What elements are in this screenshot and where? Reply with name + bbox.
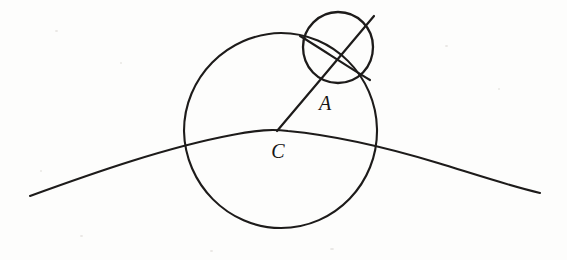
geometry-figure: A C — [0, 0, 567, 260]
label-c: C — [271, 140, 285, 162]
label-a: A — [317, 92, 332, 114]
ground-arc — [30, 130, 540, 196]
figure-canvas: A C — [0, 0, 567, 260]
small-circle — [303, 12, 373, 83]
small-circle-chord — [300, 36, 370, 80]
